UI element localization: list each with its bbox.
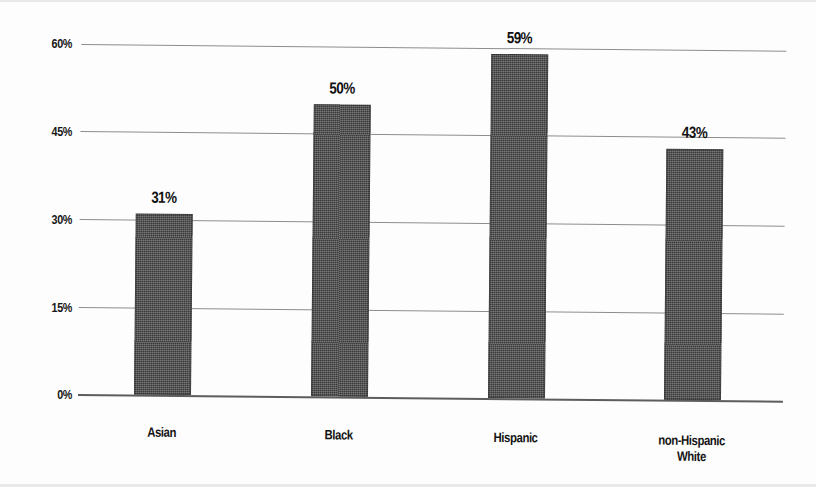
plot-area: 31% 50% 59% 43% Asian Black Hispanic non…: [0, 0, 816, 487]
bar-asian: [134, 214, 193, 396]
category-label-asian: Asian: [99, 424, 225, 441]
value-label-non-hispanic-white: 43%: [657, 124, 733, 143]
category-label-non-hispanic-white: non-Hispanic White: [628, 432, 754, 465]
bar-black: [311, 104, 371, 397]
value-label-asian: 31%: [126, 188, 202, 207]
category-label-hispanic: Hispanic: [453, 430, 579, 447]
gridline-60: [81, 44, 786, 52]
bar-chart: 60% 45% 30% 15% 0% 31% 50% 59% 43% Asian…: [0, 0, 816, 487]
value-label-hispanic: 59%: [482, 29, 558, 48]
bar-non-hispanic-white: [664, 149, 723, 401]
bar-hispanic: [488, 54, 548, 399]
category-label-black: Black: [276, 427, 402, 444]
value-label-black: 50%: [304, 79, 380, 98]
